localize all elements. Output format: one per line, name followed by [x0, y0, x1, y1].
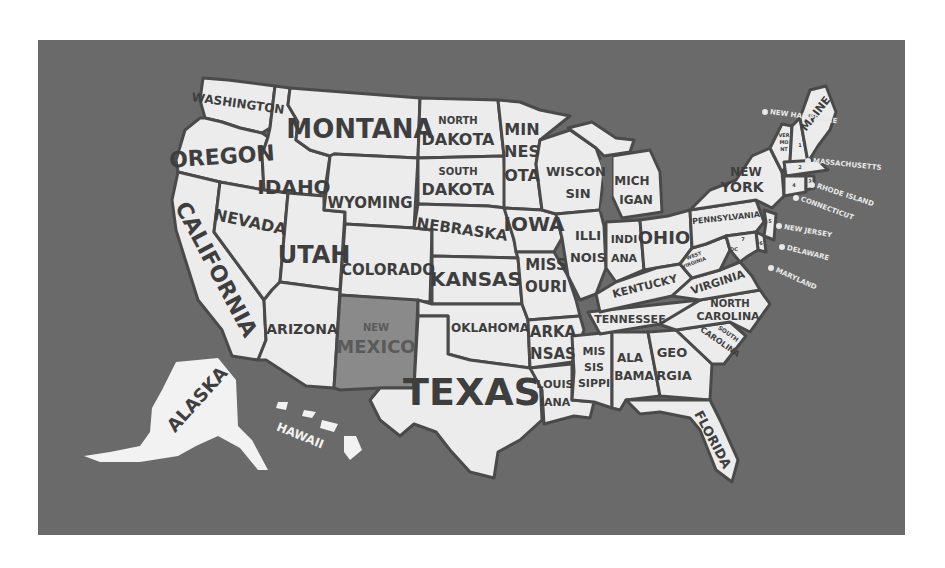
- map-number-2: 2: [798, 164, 802, 170]
- label-minnesota-line1: MIN: [504, 120, 539, 139]
- us-states-map: WASHINGTON OREGON CALIFORNIA IDAHO NEVAD…: [0, 0, 945, 568]
- label-louisiana-line1: LOUIS: [537, 378, 574, 391]
- label-idaho: IDAHO: [257, 175, 330, 199]
- label-new-york-line2: YORK: [719, 179, 764, 195]
- label-louisiana-line2: IANA: [540, 396, 571, 409]
- label-alabama-line2: BAMA: [614, 369, 654, 383]
- callout-delaware: DELAWARE: [779, 244, 830, 262]
- label-wyoming: WYOMING: [328, 194, 413, 212]
- callout-dot-icon: [768, 265, 774, 271]
- label-minnesota-line2: NES: [504, 142, 540, 161]
- label-indiana-line1: INDI: [611, 233, 638, 246]
- label-iowa: IOWA: [503, 212, 565, 236]
- callout-dot-icon: [776, 223, 782, 229]
- label-missouri-line1: MISS: [525, 256, 566, 274]
- callout-dot-icon: [762, 109, 768, 115]
- svg-text:NEW JERSEY: NEW JERSEY: [783, 223, 833, 239]
- state-hawaii-maui[interactable]: [320, 420, 338, 432]
- label-arizona: ARIZONA: [266, 321, 338, 337]
- map-number-6: 6: [759, 240, 763, 246]
- state-new-jersey[interactable]: [764, 210, 776, 240]
- label-ohio: OHIO: [638, 227, 690, 248]
- label-missouri-line2: OURI: [525, 278, 567, 296]
- label-vermont-line2: MO: [779, 139, 788, 145]
- label-illinois-line2: NOIS: [570, 250, 606, 265]
- svg-text:MARYLAND: MARYLAND: [774, 266, 818, 291]
- callout-dot-icon: [805, 158, 811, 164]
- svg-text:DELAWARE: DELAWARE: [786, 244, 830, 262]
- callout-dot-icon: [779, 244, 785, 250]
- label-minnesota-line3: OTA: [504, 166, 540, 185]
- label-texas: TEXAS: [403, 370, 541, 414]
- label-vermont-line3: NT: [780, 146, 788, 152]
- label-hawaii: HAWAII: [275, 420, 326, 452]
- label-mississippi-line2: SIS: [584, 361, 604, 374]
- label-oklahoma: OKLAHOMA: [451, 321, 530, 335]
- label-vermont-line1: VER: [778, 132, 789, 138]
- label-kansas: KANSAS: [430, 267, 522, 291]
- label-montana: MONTANA: [286, 114, 433, 144]
- map-number-1: 1: [798, 142, 802, 148]
- label-michigan-line1: MICH: [614, 174, 649, 188]
- label-new-mexico-line2: MEXICO: [336, 336, 415, 357]
- label-georgia-line2: RGIA: [656, 368, 692, 383]
- label-dc: DC: [730, 246, 738, 252]
- label-north-carolina-line1: NORTH: [710, 298, 749, 309]
- label-wisconsin-line2: SIN: [565, 186, 590, 201]
- callout-dot-icon: [793, 195, 799, 201]
- map-number-7: 7: [741, 236, 745, 242]
- label-north-dakota-line2: DAKOTA: [422, 130, 496, 149]
- label-arkansas-line2: NSAS: [530, 345, 576, 363]
- label-south-dakota-line1: SOUTH: [438, 166, 477, 177]
- callout-dot-icon: [809, 182, 815, 188]
- map-number-4: 4: [792, 182, 796, 188]
- callout-maryland: MARYLAND: [768, 265, 818, 292]
- label-south-dakota-line2: DAKOTA: [422, 180, 496, 199]
- label-arkansas-line1: ARKA: [530, 323, 577, 341]
- label-tennessee: TENNESSEE: [594, 313, 665, 326]
- label-new-mexico-line1: NEW: [363, 322, 389, 333]
- label-mississippi-line1: MIS: [583, 345, 606, 358]
- label-mississippi-line3: SIPPI: [578, 377, 610, 390]
- label-wisconsin-line1: WISCON: [546, 164, 606, 179]
- state-hawaii-big-island[interactable]: [344, 436, 362, 460]
- state-hawaii-oahu[interactable]: [302, 410, 316, 418]
- state-hawaii-kauai[interactable]: [276, 402, 288, 410]
- label-new-york-line1: NEW: [730, 165, 761, 179]
- label-utah: UTAH: [278, 241, 351, 269]
- label-michigan-line2: IGAN: [619, 193, 653, 207]
- label-colorado: COLORADO: [341, 261, 435, 279]
- map-number-5: 5: [768, 218, 772, 224]
- label-indiana-line2: ANA: [611, 252, 638, 265]
- label-north-dakota-line1: NORTH: [438, 115, 477, 126]
- label-illinois-line1: ILLI: [575, 228, 601, 243]
- label-georgia-line1: GEO: [657, 345, 688, 360]
- label-north-carolina-line2: CAROLINA: [696, 310, 760, 323]
- callout-new-jersey: NEW JERSEY: [776, 223, 833, 239]
- label-alabama-line1: ALA: [617, 351, 644, 365]
